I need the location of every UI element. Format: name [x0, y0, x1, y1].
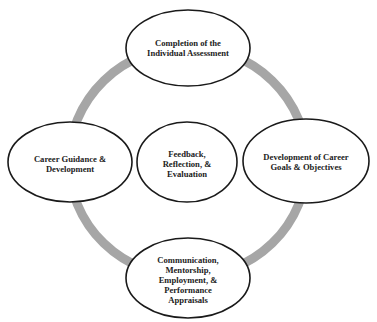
career-cycle-diagram: Completion of the Individual Assessment …: [0, 0, 377, 322]
node-text-line: Reflection, &: [163, 159, 212, 169]
node-text-line: Career Guidance &: [34, 154, 106, 164]
node-text-line: Performance: [164, 285, 212, 295]
node-career-goals: Development of Career Goals & Objectives: [243, 119, 369, 203]
node-text-line: Development of Career: [263, 152, 348, 162]
node-text-line: Development: [46, 164, 94, 174]
node-text-line: Employment, &: [159, 275, 218, 285]
node-text-line: Individual Assessment: [147, 48, 229, 58]
node-text-line: Completion of the: [155, 38, 221, 48]
node-feedback-reflection: Feedback, Reflection, & Evaluation: [137, 122, 237, 202]
node-text-line: Mentorship,: [165, 265, 210, 275]
node-text-line: Evaluation: [167, 169, 207, 179]
node-completion-assessment: Completion of the Individual Assessment: [126, 10, 250, 86]
node-text-line: Appraisals: [168, 295, 208, 305]
node-text-line: Feedback,: [168, 149, 205, 159]
node-text-line: Communication,: [157, 255, 218, 265]
node-text-line: Goals & Objectives: [270, 162, 342, 172]
node-career-guidance: Career Guidance & Development: [8, 122, 132, 202]
node-communication-mentorship: Communication, Mentorship, Employment, &…: [126, 238, 250, 318]
